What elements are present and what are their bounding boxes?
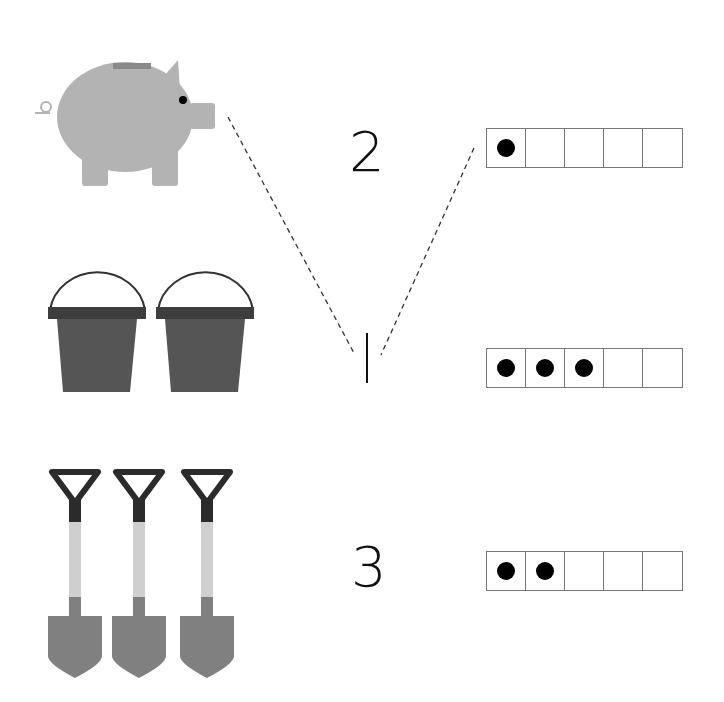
frame-cell (604, 552, 643, 590)
frame-cell (487, 349, 526, 387)
dot (497, 139, 515, 157)
dot (536, 359, 554, 377)
frame-cell (565, 552, 604, 590)
frame-cell (604, 129, 643, 167)
frame-cell (565, 349, 604, 387)
frame-cell (643, 349, 682, 387)
numeral-two: 2 (349, 124, 385, 180)
frame-cell (526, 129, 565, 167)
frame-cell (565, 129, 604, 167)
frame-cell (643, 129, 682, 167)
numeral-one (366, 333, 368, 383)
frame-cell (487, 129, 526, 167)
dot (536, 562, 554, 580)
frame-cell (526, 552, 565, 590)
frame-cell (526, 349, 565, 387)
frame-cell (643, 552, 682, 590)
frame-cell (487, 552, 526, 590)
numeral-three: 3 (351, 539, 387, 595)
five-frame-row-3 (486, 551, 683, 591)
five-frame-row-1 (486, 128, 683, 168)
five-frame-row-2 (486, 348, 683, 388)
dot (497, 359, 515, 377)
frame-cell (604, 349, 643, 387)
dot (575, 359, 593, 377)
dot (497, 562, 515, 580)
